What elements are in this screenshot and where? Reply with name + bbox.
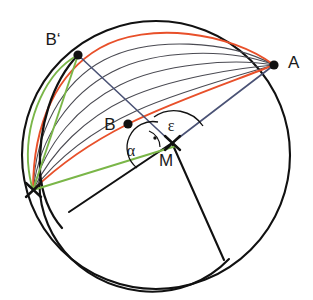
- label-a: A: [288, 53, 300, 72]
- label-b: B: [104, 115, 115, 134]
- angle-arc-epsilon: [154, 111, 203, 126]
- blue-chord-bprime-to-m: [78, 55, 172, 143]
- label-epsilon: ε: [168, 117, 175, 134]
- blue-chord-m-to-a: [172, 65, 274, 143]
- right-angle-dot: [153, 136, 156, 139]
- geometry-figure: B‘ A B M α ε: [0, 0, 313, 300]
- radius-line-lower-right: [172, 143, 224, 260]
- inner-offset-arc: [39, 172, 229, 292]
- radius-line-lower-left: [69, 143, 172, 212]
- green-chord-mark-to-m: [33, 146, 176, 190]
- label-m: M: [159, 151, 173, 170]
- label-alpha: α: [127, 142, 136, 159]
- label-b-prime: B‘: [45, 30, 60, 49]
- geometry-canvas: B‘ A B M α ε: [0, 0, 313, 300]
- point-b: [123, 119, 132, 128]
- point-a: [269, 60, 278, 69]
- point-b-prime: [73, 50, 82, 59]
